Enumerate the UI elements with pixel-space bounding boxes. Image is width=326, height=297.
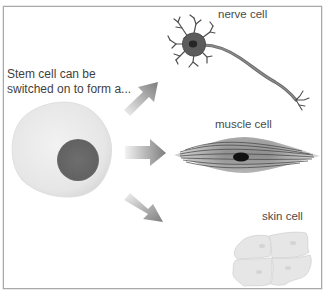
skin-cell-illustration [233, 232, 311, 286]
stem-nucleus [57, 139, 99, 181]
stem-cell-illustration [12, 102, 112, 197]
nerve-cell-illustration [168, 15, 309, 110]
muscle-cell-illustration [174, 137, 320, 173]
muscle-nucleus [233, 153, 249, 162]
arrow-to-skin-icon [124, 193, 163, 222]
arrow-to-nerve-icon [124, 82, 158, 116]
arrow-to-muscle-icon [125, 139, 166, 166]
